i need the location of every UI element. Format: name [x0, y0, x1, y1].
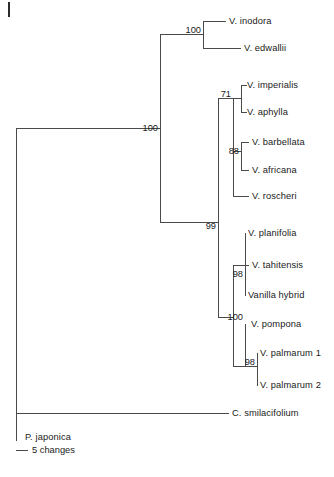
tip-label-vanilla-hybrid: Vanilla hybrid [248, 291, 305, 300]
tip-label-v-palmarum-2: V. palmarum 2 [260, 381, 321, 390]
tip-label-v-roscheri: V. roscheri [252, 192, 297, 201]
tip-label-v-edwallii: V. edwallii [244, 44, 286, 53]
tip-label-c-smilacifolium: C. smilacifolium [232, 409, 299, 418]
support-value-inodora-edwallii: 100 [171, 26, 201, 35]
tip-label-v-barbellata: V. barbellata [252, 138, 305, 147]
support-value-planifolia-pompona: 100 [213, 313, 243, 322]
support-value-vanilla-crown: 100 [128, 124, 158, 133]
tip-label-v-inodora: V. inodora [229, 17, 272, 26]
tip-label-v-africana: V. africana [252, 166, 297, 175]
tip-label-p-japonica: P. japonica [25, 433, 71, 442]
phylogenetic-tree-figure: V. inodora V. edwallii V. imperialis V. … [0, 0, 334, 477]
tip-label-v-tahitensis: V. tahitensis [252, 261, 303, 270]
support-value-oldworld-clade: 99 [196, 222, 216, 231]
support-value-planifolia-tahitensis: 98 [223, 270, 243, 279]
tip-label-v-palmarum-1: V. palmarum 1 [260, 349, 321, 358]
support-value-barbellata-africana: 88 [219, 147, 239, 156]
tip-label-v-pompona: V. pompona [251, 320, 301, 329]
tip-label-v-imperialis: V. imperialis [247, 81, 298, 90]
support-value-palmarum-pair: 98 [235, 358, 255, 367]
support-value-imperialis-aphylla: 71 [211, 90, 231, 99]
tree-branch-graphic [0, 0, 334, 477]
tip-label-v-planifolia: V. planifolia [248, 229, 297, 238]
scale-bar-label: 5 changes [32, 446, 75, 455]
tip-label-v-aphylla: V. aphylla [247, 108, 288, 117]
